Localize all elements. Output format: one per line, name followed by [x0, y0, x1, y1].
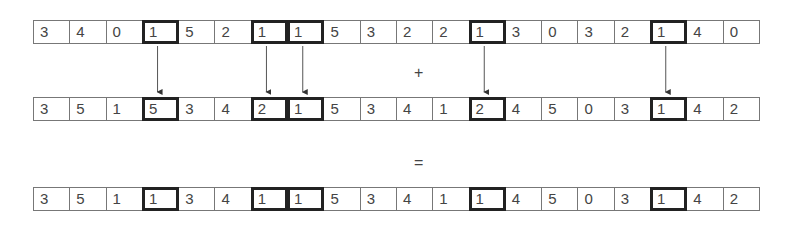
- array-cell: 3: [33, 97, 70, 121]
- array-cell: 3: [33, 187, 70, 211]
- array-cell: 5: [323, 97, 360, 121]
- array-cell: 3: [614, 97, 651, 121]
- array-cell-highlighted: 1: [142, 187, 179, 211]
- array-cell-highlighted: 1: [287, 20, 324, 44]
- array-cell: 4: [686, 97, 723, 121]
- array-cell: 4: [214, 97, 251, 121]
- array-cell: 1: [432, 97, 469, 121]
- array-cell: 2: [723, 97, 760, 121]
- array-cell: 3: [178, 187, 215, 211]
- array-cell: 1: [432, 187, 469, 211]
- plus-sign: +: [414, 64, 423, 82]
- array-cell: 4: [396, 187, 433, 211]
- array-cell-highlighted: 1: [251, 20, 288, 44]
- array-cell-highlighted: 2: [469, 97, 506, 121]
- array-cell-highlighted: 1: [287, 187, 324, 211]
- array-cell-highlighted: 2: [251, 97, 288, 121]
- array-cell: 5: [541, 187, 578, 211]
- array-cell-highlighted: 5: [142, 97, 179, 121]
- array-row-input-b: 35153421534124503142: [33, 97, 760, 121]
- array-cell: 3: [178, 97, 215, 121]
- array-cell-highlighted: 1: [251, 187, 288, 211]
- array-cell: 0: [577, 97, 614, 121]
- array-cell-highlighted: 1: [142, 20, 179, 44]
- array-cell: 5: [541, 97, 578, 121]
- array-cell-highlighted: 1: [650, 187, 687, 211]
- array-cell: 5: [69, 97, 106, 121]
- array-cell-highlighted: 1: [469, 187, 506, 211]
- array-cell: 2: [723, 187, 760, 211]
- array-cell: 4: [686, 187, 723, 211]
- array-cell: 0: [577, 187, 614, 211]
- array-cell: 4: [505, 187, 542, 211]
- array-cell: 4: [214, 187, 251, 211]
- array-cell-highlighted: 1: [469, 20, 506, 44]
- array-cell-highlighted: 1: [287, 97, 324, 121]
- array-cell-highlighted: 1: [650, 20, 687, 44]
- array-cell: 4: [505, 97, 542, 121]
- array-cell: 3: [360, 187, 397, 211]
- array-cell: 1: [106, 97, 143, 121]
- array-cell: 5: [323, 187, 360, 211]
- array-cell: 1: [106, 187, 143, 211]
- array-cell: 3: [360, 97, 397, 121]
- array-row-result: 35113411534114503142: [33, 187, 760, 211]
- array-cell: 5: [69, 187, 106, 211]
- array-cell: 3: [614, 187, 651, 211]
- array-cell: 4: [396, 97, 433, 121]
- equals-sign: =: [414, 154, 423, 172]
- array-cell-highlighted: 1: [650, 97, 687, 121]
